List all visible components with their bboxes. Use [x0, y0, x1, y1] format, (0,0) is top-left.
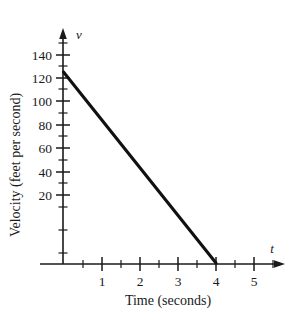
plot-canvas: 140 120 100 80 60 40 20 1 2 3 4 5 v t Ti… — [0, 0, 298, 316]
y-axis-arrowhead — [59, 28, 67, 39]
velocity-time-graph: 140 120 100 80 60 40 20 1 2 3 4 5 v t Ti… — [0, 0, 298, 316]
y-tick-label-120: 120 — [32, 71, 53, 86]
x-axis-arrowhead — [274, 260, 285, 268]
velocity-data-line — [64, 72, 217, 263]
x-tick-label-2: 2 — [137, 274, 144, 289]
x-axis-group — [40, 260, 285, 268]
y-tick-label-60: 60 — [39, 141, 53, 156]
x-tick-label-1: 1 — [99, 274, 106, 289]
y-axis-group — [59, 28, 67, 264]
y-tick-label-20: 20 — [39, 188, 53, 203]
x-axis-symbol-t: t — [270, 241, 274, 256]
y-axis-symbol-v: v — [76, 27, 82, 42]
y-axis-title: Velocity (feet per second) — [8, 93, 24, 238]
x-axis-title: Time (seconds) — [125, 293, 212, 309]
x-tick-label-3: 3 — [175, 274, 182, 289]
y-tick-label-140: 140 — [32, 48, 53, 63]
y-tick-label-100: 100 — [32, 94, 53, 109]
x-tick-label-5: 5 — [251, 274, 258, 289]
y-tick-label-40: 40 — [39, 165, 53, 180]
x-tick-label-4: 4 — [213, 274, 220, 289]
y-tick-label-80: 80 — [39, 118, 53, 133]
